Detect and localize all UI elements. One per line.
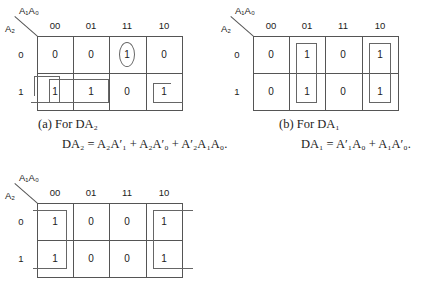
group-wrap-right-half <box>153 83 171 103</box>
cell-r1-c11: 0 <box>109 240 145 277</box>
group-wrap-left-bottom <box>31 102 60 103</box>
caption-b-equation: DA₁ = A′₁A₀ + A₁A′₀. <box>301 137 411 152</box>
kmap-corner-diagonal <box>14 16 37 36</box>
col-header-00: 00 <box>37 20 73 31</box>
col-header-01: 01 <box>289 20 325 31</box>
group-wrap-left-half <box>33 210 67 269</box>
col-header-10: 10 <box>146 187 182 198</box>
group-wrap-left-edge <box>59 76 60 103</box>
col-header-10: 10 <box>146 20 182 31</box>
caption-a-equation: DA₂ = A₂A′₁ + A₂A′₀ + A′₂A₁A₀. <box>62 137 227 152</box>
col-header-11: 11 <box>109 20 145 31</box>
group-wrap-left-edge <box>66 210 67 269</box>
caption-b-label: (b) For DA₁ <box>279 117 340 132</box>
caption-a-label: (a) For DA₂ <box>38 117 98 132</box>
col-var-label: A₁A₀ <box>19 5 39 16</box>
col-header-01: 01 <box>73 187 109 198</box>
col-header-00: 00 <box>253 20 289 31</box>
col-var-label: A₁A₀ <box>235 5 255 16</box>
cell-r0-c10: 0 <box>146 36 182 73</box>
row-header-1: 1 <box>15 240 27 277</box>
cell-r0-c01: 0 <box>73 203 109 240</box>
cell-r0-c00: 0 <box>253 36 289 73</box>
group-col-10 <box>369 43 391 103</box>
cell-r0-c11: 0 <box>109 203 145 240</box>
col-header-10: 10 <box>362 20 398 31</box>
cell-r1-c01: 0 <box>73 240 109 277</box>
row-var-label: A₂ <box>5 23 15 34</box>
cell-r0-c00: 0 <box>37 36 73 73</box>
kmap-corner-diagonal <box>230 16 253 36</box>
cell-r1-c11: 0 <box>325 73 361 110</box>
cell-r1-c11: 0 <box>109 73 145 110</box>
group-col-01 <box>296 43 317 103</box>
row-header-0: 0 <box>231 36 243 73</box>
row-var-label: A₂ <box>221 23 231 34</box>
row-var-label: A₂ <box>5 190 15 201</box>
col-header-00: 00 <box>37 187 73 198</box>
row-header-1: 1 <box>15 73 27 110</box>
cell-r1-c00: 0 <box>253 73 289 110</box>
group-circle-minterm-3 <box>119 42 135 67</box>
col-header-01: 01 <box>73 20 109 31</box>
row-header-1: 1 <box>231 73 243 110</box>
group-wrap-left-half <box>34 76 60 96</box>
col-var-label: A₁A₀ <box>19 172 39 183</box>
cell-r0-c01: 0 <box>73 36 109 73</box>
col-header-11: 11 <box>109 187 145 198</box>
group-wrap-right-bottom <box>153 102 183 103</box>
row-header-0: 0 <box>15 36 27 73</box>
group-wrap-right-half <box>153 210 193 269</box>
cell-r0-c11: 0 <box>325 36 361 73</box>
col-header-11: 11 <box>325 20 361 31</box>
kmap-corner-diagonal <box>14 183 37 203</box>
row-header-0: 0 <box>15 203 27 240</box>
